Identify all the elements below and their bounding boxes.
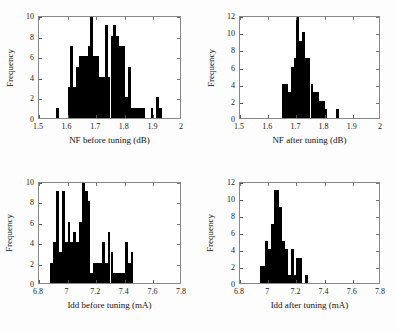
y-tick [240, 234, 243, 235]
x-tick-top [325, 17, 326, 20]
y-tick [240, 183, 243, 184]
x-tick-label: 7.2 [290, 287, 300, 296]
x-tick-label: 7 [65, 287, 69, 296]
y-tick-label: 8 [217, 46, 235, 55]
x-tick-top [153, 183, 154, 186]
x-tick-top [353, 17, 354, 20]
y-tick [39, 265, 42, 266]
histogram-figure: 1.51.61.71.81.920246810NF before tuning … [0, 0, 397, 331]
x-tick-top [125, 17, 126, 20]
x-tick [240, 280, 241, 283]
x-tick-top [353, 183, 354, 186]
y-tick [39, 58, 42, 59]
y-tick-right [376, 51, 379, 52]
panel-idd-before: 6.877.27.47.67.80246810Idd before tuning… [0, 166, 199, 331]
x-tick [325, 280, 326, 283]
y-tick-label: 10 [217, 195, 235, 204]
bar [305, 275, 308, 284]
y-tick-label: 10 [16, 178, 34, 187]
y-tick-label: 4 [16, 73, 34, 82]
y-tick-label: 2 [217, 263, 235, 272]
x-tick-label: 1.6 [262, 122, 272, 131]
y-tick [240, 103, 243, 104]
x-tick [39, 280, 40, 283]
y-tick-label: 2 [16, 259, 34, 268]
bar [131, 252, 134, 283]
y-tick-label: 0 [16, 280, 34, 289]
plot-area-idd-before-tuning [38, 182, 181, 284]
x-axis-label: NF after tuning (dB) [239, 135, 380, 145]
x-tick-label: 1.5 [33, 122, 43, 131]
x-tick-top [296, 183, 297, 186]
y-tick [240, 51, 243, 52]
y-tick [39, 38, 42, 39]
y-tick-label: 0 [217, 280, 235, 289]
y-axis-label: Frequency [4, 182, 14, 284]
y-tick-label: 4 [217, 246, 235, 255]
y-tick [39, 244, 42, 245]
plot-area-idd-after-tuning [239, 182, 380, 284]
y-tick-right [376, 103, 379, 104]
y-tick-label: 6 [217, 229, 235, 238]
y-tick-right [376, 234, 379, 235]
x-tick-label: 7 [265, 287, 269, 296]
x-tick-label: 7.4 [119, 287, 129, 296]
x-axis-label: Idd after tuning (mA) [239, 300, 380, 310]
x-tick [153, 280, 154, 283]
x-tick [268, 280, 269, 283]
x-tick [39, 115, 40, 118]
y-tick-right [376, 217, 379, 218]
x-tick [153, 115, 154, 118]
panel-idd-after: 6.877.27.47.67.8024681012Idd after tunin… [199, 166, 397, 331]
y-axis-label: Frequency [205, 182, 215, 284]
y-tick-right [177, 58, 180, 59]
y-tick [240, 200, 243, 201]
y-tick-right [177, 38, 180, 39]
y-tick [240, 34, 243, 35]
x-tick-label: 1.7 [290, 122, 300, 131]
y-tick-label: 8 [217, 212, 235, 221]
bar-series-idd-after-tuning [240, 183, 379, 283]
y-axis-label: Frequency [205, 16, 215, 119]
x-tick-label: 7.6 [147, 287, 157, 296]
x-tick [68, 280, 69, 283]
bar-series-nf-before-tuning [39, 17, 180, 118]
x-tick [68, 115, 69, 118]
x-tick-label: 1.8 [319, 122, 329, 131]
x-tick [353, 280, 354, 283]
y-tick-right [177, 99, 180, 100]
x-tick-top [296, 17, 297, 20]
x-tick [325, 115, 326, 118]
x-tick-top [268, 183, 269, 186]
y-tick-label: 6 [16, 53, 34, 62]
x-tick-label: 7.8 [176, 287, 186, 296]
x-tick-top [268, 17, 269, 20]
y-tick-right [177, 203, 180, 204]
y-tick [39, 99, 42, 100]
x-tick-label: 1.5 [234, 122, 244, 131]
y-tick-label: 2 [16, 94, 34, 103]
y-tick-right [376, 86, 379, 87]
y-tick-label: 2 [217, 97, 235, 106]
y-tick-label: 10 [16, 12, 34, 21]
x-tick [96, 280, 97, 283]
x-tick [268, 115, 269, 118]
x-tick [240, 115, 241, 118]
panel-nf-before: 1.51.61.71.81.920246810NF before tuning … [0, 0, 199, 166]
y-tick-right [376, 34, 379, 35]
x-tick-label: 2 [179, 122, 183, 131]
y-tick-label: 0 [217, 115, 235, 124]
x-tick [353, 115, 354, 118]
bar-series-nf-after-tuning [240, 17, 379, 118]
bar-series-idd-before-tuning [39, 183, 180, 283]
plot-area-nf-after-tuning [239, 16, 380, 119]
y-tick [39, 203, 42, 204]
y-tick [240, 217, 243, 218]
x-tick [296, 280, 297, 283]
x-tick-top [96, 17, 97, 20]
panel-nf-after: 1.51.61.71.81.92024681012NF after tuning… [199, 0, 397, 166]
y-tick-label: 4 [16, 239, 34, 248]
y-tick-right [376, 268, 379, 269]
bar [299, 258, 302, 284]
x-axis-label: NF before tuning (dB) [38, 135, 181, 145]
